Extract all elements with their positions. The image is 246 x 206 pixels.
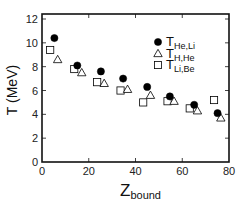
- legend-label-main: T: [166, 57, 174, 72]
- data-point-open-square: [210, 96, 217, 103]
- legend-label-sub: Li,Be: [174, 64, 195, 74]
- legend: THe,LiTH,HeTLi,Be: [154, 34, 195, 74]
- data-point-open-triangle: [53, 55, 61, 62]
- y-tick-label: 12: [26, 13, 38, 25]
- legend-label-sub: H,He: [174, 53, 195, 63]
- data-points: [47, 34, 225, 121]
- data-point-filled-circle: [51, 34, 58, 41]
- data-point-open-triangle: [100, 79, 108, 86]
- data-point-filled-circle: [166, 93, 173, 100]
- legend-marker-filled-circle: [154, 38, 161, 45]
- x-tick-label: 40: [129, 165, 141, 177]
- x-axis-label-main: Z: [120, 181, 130, 200]
- y-tick-label: 6: [32, 85, 38, 97]
- x-axis-label-sub: bound: [130, 189, 161, 201]
- x-tick-label: 60: [176, 165, 188, 177]
- y-tick-label: 10: [26, 37, 38, 49]
- y-tick-label: 2: [32, 132, 38, 144]
- plot-border: [42, 14, 229, 162]
- data-point-open-square: [140, 99, 147, 106]
- data-point-open-square: [117, 87, 124, 94]
- scatter-chart: 020406080024681012 THe,LiTH,HeTLi,Be T (…: [0, 0, 246, 206]
- y-tick-label: 8: [32, 61, 38, 73]
- data-point-open-square: [94, 79, 101, 86]
- x-tick-label: 0: [39, 165, 45, 177]
- data-point-filled-circle: [214, 110, 221, 117]
- data-point-open-triangle: [78, 68, 86, 75]
- x-tick-label: 80: [223, 165, 235, 177]
- axis-ticks: [42, 14, 229, 162]
- x-tick-label: 20: [83, 165, 95, 177]
- plot-frame: [42, 14, 229, 162]
- legend-marker-open-triangle: [154, 49, 162, 56]
- legend-item: THe,Li: [154, 34, 195, 51]
- data-point-open-triangle: [146, 91, 154, 98]
- data-point-filled-circle: [191, 101, 198, 108]
- data-point-open-square: [47, 46, 54, 53]
- data-point-open-triangle: [123, 85, 131, 92]
- data-point-filled-circle: [97, 68, 104, 75]
- y-axis-label: T (MeV): [4, 65, 20, 115]
- data-point-filled-circle: [120, 75, 127, 82]
- legend-marker-open-square: [154, 61, 161, 68]
- x-axis-label: Zbound: [120, 181, 161, 201]
- y-tick-label: 4: [32, 108, 38, 120]
- legend-label-sub: He,Li: [174, 41, 195, 51]
- data-point-filled-circle: [144, 83, 151, 90]
- data-point-filled-circle: [74, 62, 81, 69]
- y-tick-label: 0: [32, 156, 38, 168]
